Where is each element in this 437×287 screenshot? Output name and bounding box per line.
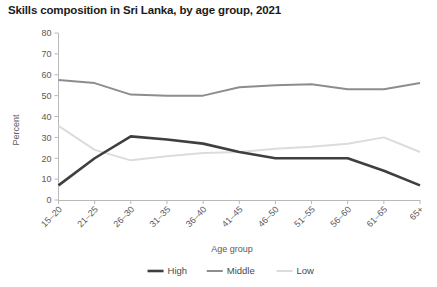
x-axis-title: Age group — [211, 244, 253, 254]
series-line-high — [59, 136, 421, 185]
y-tick-label: 30 — [41, 133, 51, 143]
x-axis-tick-labels: 15–2021–2526–3031–3536–4041–4546–5051–55… — [39, 204, 425, 229]
x-tick-label: 15–20 — [39, 204, 64, 229]
legend-item-middle[interactable]: Middle — [207, 265, 255, 276]
legend-label-high: High — [168, 265, 188, 276]
x-tick-label: 56–60 — [328, 204, 353, 229]
series-line-middle — [59, 80, 421, 96]
x-tick-label: 31–35 — [148, 204, 173, 229]
y-tick-label: 0 — [46, 195, 51, 205]
chart-series-group — [59, 80, 421, 185]
series-line-low — [59, 126, 421, 160]
y-tick-label: 20 — [41, 154, 51, 164]
y-tick-label: 10 — [41, 174, 51, 184]
chart-container: Skills composition in Sri Lanka, by age … — [0, 0, 437, 287]
legend-item-high[interactable]: High — [148, 265, 188, 276]
y-tick-label: 50 — [41, 91, 51, 101]
x-tick-label: 51–55 — [292, 204, 317, 229]
y-axis-title: Percent — [11, 114, 21, 146]
x-tick-label: 26–30 — [111, 204, 136, 229]
y-axis-ticks: 01020304050607080 — [41, 28, 58, 205]
y-tick-label: 80 — [41, 28, 51, 38]
legend-label-middle: Middle — [227, 265, 255, 276]
legend-label-low: Low — [297, 265, 315, 276]
x-tick-label: 41–45 — [220, 204, 245, 229]
x-tick-label: 21–25 — [75, 204, 100, 229]
x-tick-label: 36–40 — [184, 204, 209, 229]
x-tick-label: 61–65 — [364, 204, 389, 229]
y-tick-label: 40 — [41, 112, 51, 122]
y-tick-label: 70 — [41, 49, 51, 59]
y-tick-label: 60 — [41, 70, 51, 80]
legend-item-low[interactable]: Low — [277, 265, 315, 276]
line-chart-plot: 01020304050607080 15–2021–2526–3031–3536… — [0, 0, 437, 287]
x-tick-label: 46–50 — [256, 204, 281, 229]
x-tick-label: 65+ — [408, 204, 426, 222]
chart-legend: HighMiddleLow — [148, 265, 315, 276]
